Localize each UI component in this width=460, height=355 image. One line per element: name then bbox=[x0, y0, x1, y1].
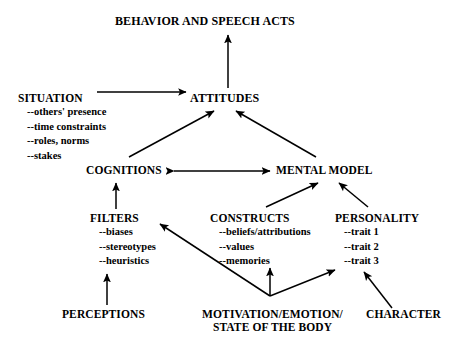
edge-character-to-personality bbox=[364, 272, 392, 308]
node-personality-label: PERSONALITY bbox=[335, 212, 419, 225]
list-item: --stakes bbox=[18, 149, 106, 164]
node-attitudes: ATTITUDES bbox=[190, 92, 259, 105]
filters-sublist: --biases --stereotypes --heuristics bbox=[90, 225, 156, 269]
list-item: --biases bbox=[90, 225, 156, 240]
node-character: CHARACTER bbox=[366, 308, 441, 321]
node-personality: PERSONALITY --trait 1 --trait 2 --trait … bbox=[335, 212, 419, 269]
node-behavior-and-speech-acts: BEHAVIOR AND SPEECH ACTS bbox=[115, 15, 295, 28]
node-behavior-label: BEHAVIOR AND SPEECH ACTS bbox=[115, 14, 295, 28]
edge-mentalmodel-to-attitudes bbox=[236, 111, 316, 157]
edge-motivation-to-personality bbox=[270, 270, 335, 296]
diagram-canvas: BEHAVIOR AND SPEECH ACTS ATTITUDES SITUA… bbox=[0, 0, 460, 355]
list-item: --beliefs/attributions bbox=[210, 225, 311, 240]
node-cognitions-label: COGNITIONS bbox=[86, 164, 162, 176]
list-item: --others' presence bbox=[18, 105, 106, 120]
list-item: --time constraints bbox=[18, 120, 106, 135]
situation-sublist: --others' presence --time constraints --… bbox=[18, 105, 106, 163]
arrow-layer bbox=[0, 0, 460, 355]
node-attitudes-label: ATTITUDES bbox=[190, 91, 259, 105]
constructs-sublist: --beliefs/attributions --values --memori… bbox=[210, 225, 311, 269]
list-item: --heuristics bbox=[90, 254, 156, 269]
list-item: --memories bbox=[210, 254, 311, 269]
list-item: --trait 2 bbox=[335, 240, 419, 255]
edge-constructs-to-mentalmodel bbox=[266, 183, 318, 207]
list-item: --trait 1 bbox=[335, 225, 419, 240]
personality-sublist: --trait 1 --trait 2 --trait 3 bbox=[335, 225, 419, 269]
node-constructs: CONSTRUCTS --beliefs/attributions --valu… bbox=[210, 212, 311, 269]
list-item: --values bbox=[210, 240, 311, 255]
node-perceptions: PERCEPTIONS bbox=[62, 308, 145, 321]
node-situation: SITUATION --others' presence --time cons… bbox=[18, 92, 106, 163]
node-cognitions: COGNITIONS bbox=[86, 164, 162, 177]
edge-cognitions-to-attitudes bbox=[129, 111, 214, 157]
node-filters-label: FILTERS bbox=[90, 212, 156, 225]
node-constructs-label: CONSTRUCTS bbox=[210, 212, 311, 225]
node-character-label: CHARACTER bbox=[366, 308, 441, 320]
list-item: --trait 3 bbox=[335, 254, 419, 269]
list-item: --roles, norms bbox=[18, 134, 106, 149]
edge-personality-to-mentalmodel bbox=[339, 183, 368, 207]
node-motivation-emotion: MOTIVATION/EMOTION/ STATE OF THE BODY bbox=[180, 308, 365, 334]
node-motivation-label-line1: MOTIVATION/EMOTION/ bbox=[180, 308, 365, 321]
node-situation-label: SITUATION bbox=[18, 92, 106, 105]
node-mental-model-label: MENTAL MODEL bbox=[276, 164, 373, 176]
node-mental-model: MENTAL MODEL bbox=[276, 164, 373, 177]
node-filters: FILTERS --biases --stereotypes --heurist… bbox=[90, 212, 156, 269]
node-perceptions-label: PERCEPTIONS bbox=[62, 308, 145, 320]
node-motivation-label-line2: STATE OF THE BODY bbox=[180, 321, 365, 334]
list-item: --stereotypes bbox=[90, 240, 156, 255]
